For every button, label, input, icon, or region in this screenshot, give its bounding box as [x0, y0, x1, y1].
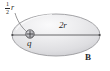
- fraction-one-half: 1 2: [5, 1, 10, 15]
- offset-unit-label: r: [11, 4, 14, 12]
- charge-label: q: [27, 39, 32, 48]
- diameter-left-endpoint: [11, 34, 13, 36]
- figure-canvas: [0, 0, 110, 71]
- diameter-right-endpoint: [99, 34, 101, 36]
- fraction-denominator: 2: [5, 9, 10, 15]
- offset-label: 1 2 r: [5, 1, 14, 15]
- fraction-numerator: 1: [5, 1, 10, 7]
- diameter-label: 2r: [59, 21, 67, 30]
- physics-figure: 1 2 r 2r q B: [0, 0, 110, 71]
- surface-label: B: [85, 53, 91, 62]
